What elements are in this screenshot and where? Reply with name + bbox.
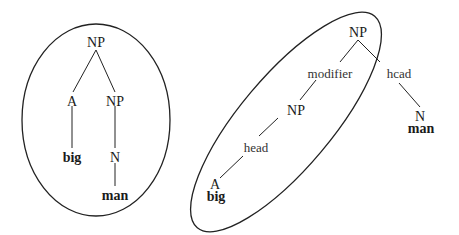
left-enclosing-ellipse xyxy=(22,24,170,216)
diagram-canvas: NP A NP big N man NP modifier hcad NP he… xyxy=(0,0,459,235)
left-word-man: man xyxy=(102,188,129,203)
edge-np-head xyxy=(259,118,278,136)
relation-hcad: hcad xyxy=(387,66,412,81)
edge-head-a xyxy=(220,156,243,178)
right-dependency-tree: NP modifier hcad NP head A big N man xyxy=(162,0,434,235)
edge-modifier-np xyxy=(300,80,316,100)
edge-np-modifier xyxy=(340,40,358,62)
right-word-man: man xyxy=(408,121,435,136)
edge-np-a xyxy=(73,50,96,92)
left-node-np: NP xyxy=(106,94,124,109)
edge-np-np xyxy=(96,50,115,92)
edge-np-hcad xyxy=(358,40,380,62)
right-inner-np: NP xyxy=(287,103,305,118)
left-root-np: NP xyxy=(87,35,105,50)
left-word-big: big xyxy=(63,150,82,165)
left-node-n: N xyxy=(110,150,120,165)
left-constituency-tree: NP A NP big N man xyxy=(22,24,170,216)
relation-modifier: modifier xyxy=(308,66,353,81)
right-word-big: big xyxy=(207,189,226,204)
left-node-a: A xyxy=(67,94,78,109)
right-root-np: NP xyxy=(349,25,367,40)
edge-hcad-n xyxy=(399,83,420,107)
right-enclosing-ellipse xyxy=(162,0,410,235)
relation-head: head xyxy=(244,140,269,155)
